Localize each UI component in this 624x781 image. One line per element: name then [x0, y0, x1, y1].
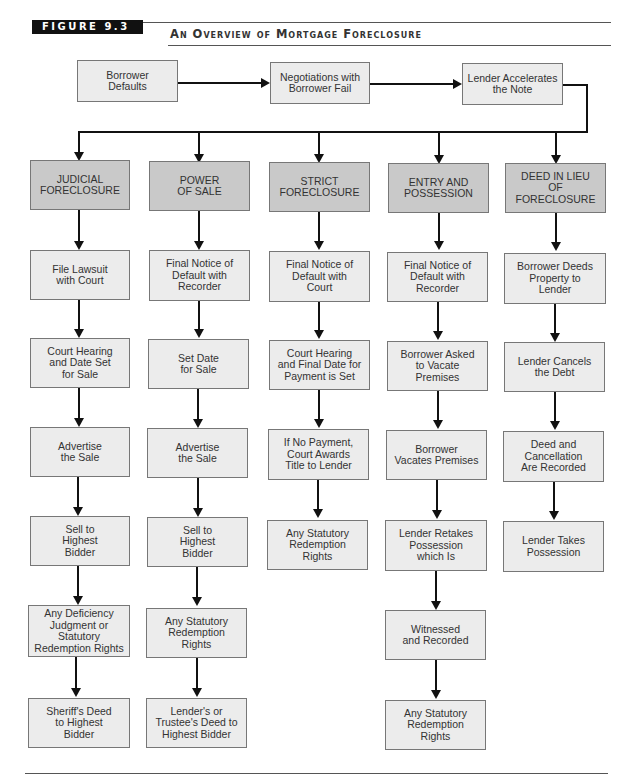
arrowhead-down-icon: [431, 601, 441, 610]
flow-line: [318, 302, 320, 331]
step-box: Final Notice of Default with Recorder: [149, 250, 250, 301]
connector-line: [370, 83, 454, 85]
flow-line: [198, 301, 200, 330]
step-box: Lender Cancels the Debt: [504, 342, 605, 392]
header-strict-foreclosure: STRICT FORECLOSURE: [269, 162, 370, 212]
step-box: Borrower Vacates Premises: [386, 430, 487, 480]
flow-line: [435, 571, 437, 602]
step-box: Sheriff's Deed to Highest Bidder: [28, 698, 130, 748]
step-box: Advertise the Sale: [30, 427, 130, 477]
flow-line: [196, 658, 198, 689]
arrowhead-down-icon: [314, 241, 324, 250]
step-box: Lender's or Trustee's Deed to Highest Bi…: [146, 698, 247, 748]
step-box: Final Notice of Default with Court: [269, 251, 370, 302]
figure-title: An Overview of Mortgage Foreclosure: [170, 27, 422, 41]
branch-line: [555, 131, 557, 156]
arrowhead-down-icon: [434, 241, 444, 250]
step-box: Sell to Highest Bidder: [30, 516, 130, 566]
branch-line: [198, 131, 200, 155]
figure-label: FIGURE 9.3: [32, 20, 143, 34]
flow-line: [196, 567, 198, 598]
step-box: File Lawsuit with Court: [30, 250, 130, 300]
arrowhead-down-icon: [433, 420, 443, 429]
step-box: Any Statutory Redemption Rights: [146, 608, 247, 658]
arrowhead-down-icon: [194, 329, 204, 338]
step-box: Any Statutory Redemption Rights: [385, 700, 486, 750]
arrowhead-down-icon: [192, 597, 202, 606]
header-entry-and-possession: ENTRY AND POSSESSION: [388, 163, 489, 213]
arrowhead-right-icon: [261, 78, 270, 88]
box-borrower-defaults: Borrower Defaults: [77, 60, 178, 102]
header-power-of-sale: POWER OF SALE: [149, 161, 250, 211]
flow-line: [197, 478, 199, 509]
step-box: Any Statutory Redemption Rights: [267, 520, 368, 570]
step-box: Court Hearing and Final Date for Payment…: [269, 340, 370, 390]
arrowhead-down-icon: [74, 418, 84, 427]
branch-line: [78, 131, 80, 153]
box-lender-accelerates: Lender Accelerates the Note: [462, 63, 563, 105]
footer-rule: [25, 773, 608, 774]
header-judicial-foreclosure: JUDICIAL FORECLOSURE: [30, 160, 130, 210]
connector-line: [178, 82, 262, 84]
arrowhead-down-icon: [313, 509, 323, 518]
branch-line: [438, 131, 440, 156]
flow-line: [78, 210, 80, 242]
flow-line: [437, 302, 439, 332]
arrowhead-down-icon: [74, 241, 84, 250]
title-bottom-rule: [168, 45, 611, 46]
flow-line: [553, 482, 555, 512]
flow-line: [318, 390, 320, 420]
arrowhead-down-icon: [73, 507, 83, 516]
arrowhead-down-icon: [432, 510, 442, 519]
arrowhead-down-icon: [73, 596, 83, 605]
step-box: If No Payment, Court Awards Title to Len…: [268, 429, 369, 480]
arrowhead-down-icon: [193, 419, 203, 428]
title-top-rule: [143, 22, 611, 23]
flow-line: [197, 389, 199, 420]
flow-line: [78, 300, 80, 330]
arrowhead-down-icon: [314, 330, 324, 339]
arrowhead-down-icon: [314, 419, 324, 428]
step-box: Lender Takes Possession: [503, 521, 604, 572]
flow-line: [438, 213, 440, 242]
step-box: Any Deficiency Judgment or Statutory Red…: [28, 605, 130, 657]
flow-line: [554, 304, 556, 334]
flow-line: [77, 566, 79, 597]
step-box: Final Notice of Default with Recorder: [387, 252, 488, 302]
flow-line: [437, 391, 439, 421]
arrowhead-down-icon: [550, 421, 560, 430]
flow-line: [554, 392, 556, 422]
header-deed-in-lieu: DEED IN LIEU OF FORECLOSURE: [505, 163, 606, 213]
branch-line: [318, 131, 320, 155]
arrowhead-down-icon: [193, 508, 203, 517]
arrowhead-down-icon: [74, 329, 84, 338]
step-box: Witnessed and Recorded: [385, 610, 486, 660]
arrowhead-down-icon: [551, 242, 561, 251]
arrowhead-down-icon: [431, 690, 441, 699]
flow-line: [318, 212, 320, 242]
step-box: Borrower Deeds Property to Lender: [504, 253, 606, 304]
arrowhead-down-icon: [194, 241, 204, 250]
flow-line: [77, 477, 79, 508]
step-box: Court Hearing and Date Set for Sale: [30, 338, 130, 388]
flow-line: [75, 657, 77, 689]
step-box: Set Date for Sale: [148, 339, 249, 389]
flow-line: [555, 213, 557, 243]
flow-line: [435, 660, 437, 691]
step-box: Borrower Asked to Vacate Premises: [387, 341, 488, 391]
step-box: Deed and Cancellation Are Recorded: [503, 431, 604, 482]
flow-line: [198, 211, 200, 242]
arrowhead-right-icon: [453, 79, 462, 89]
arrowhead-down-icon: [71, 688, 81, 697]
step-box: Sell to Highest Bidder: [147, 517, 248, 567]
box-negotiations-fail: Negotiations with Borrower Fail: [270, 62, 370, 104]
branch-bus-line: [78, 131, 588, 133]
flow-line: [436, 480, 438, 511]
arrowhead-down-icon: [433, 331, 443, 340]
arrowhead-down-icon: [192, 688, 202, 697]
connector-line: [586, 84, 588, 133]
flow-line: [78, 388, 80, 419]
arrowhead-down-icon: [550, 333, 560, 342]
arrowhead-down-icon: [549, 511, 559, 520]
step-box: Advertise the Sale: [147, 428, 248, 478]
